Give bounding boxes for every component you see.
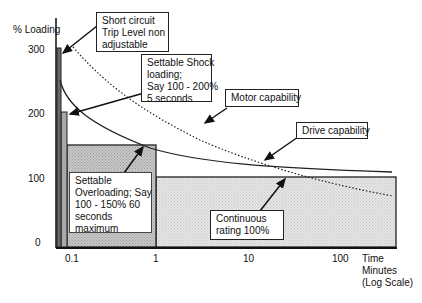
shock-loading-bar	[61, 112, 67, 247]
callout-continuous-rating: Continuous rating 100%	[210, 210, 284, 240]
callout-short-circuit: Short circuit Trip Level non adjustable	[96, 12, 169, 52]
y-tick-200: 200	[28, 108, 45, 120]
arrow-motor	[205, 108, 227, 123]
callout-shock-loading: Settable Shock loading; Say 100 - 200% 5…	[141, 54, 212, 102]
x-axis-label-line2: Minutes	[362, 265, 413, 277]
arrow-shock	[70, 93, 144, 114]
x-axis-label: Time Minutes (Log Scale)	[362, 253, 413, 289]
callout-drive-capability: Drive capability	[296, 122, 368, 139]
y-tick-0: 0	[35, 237, 41, 249]
arrow-drive	[265, 137, 298, 160]
arrow-short-circuit	[63, 26, 97, 53]
y-tick-100: 100	[28, 173, 45, 185]
x-axis-label-line1: Time	[362, 253, 413, 265]
y-axis-label: % Loading	[13, 24, 60, 36]
x-tick-0.1: 0.1	[65, 253, 79, 265]
callout-motor-capability: Motor capability	[225, 89, 299, 107]
x-tick-100: 100	[332, 253, 349, 265]
loading-chart	[0, 0, 422, 303]
x-tick-10: 10	[243, 253, 254, 265]
x-axis-label-line3: (Log Scale)	[362, 277, 413, 289]
callout-overloading: Settable Overloading; Say 100 - 150% 60 …	[69, 172, 152, 233]
short-circuit-bar	[57, 48, 61, 247]
x-tick-1: 1	[153, 253, 159, 265]
y-tick-300: 300	[28, 44, 45, 56]
